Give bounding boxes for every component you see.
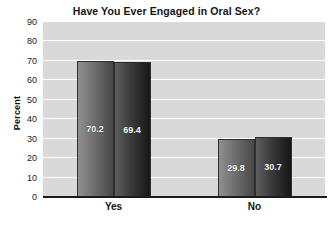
chart-figure: Have You Ever Engaged in Oral Sex? Male … (0, 0, 333, 227)
bar-value-label: 29.8 (219, 163, 254, 173)
y-tick-label: 40 (27, 114, 37, 124)
bar-value-label: 69.4 (115, 125, 150, 135)
x-axis-tick-labels: YesNo (43, 201, 325, 221)
y-tick-label: 0 (32, 192, 37, 202)
bar-male-yes[interactable]: 70.2 (77, 61, 114, 198)
bar-female-yes[interactable]: 69.4 (114, 62, 151, 197)
chart-title: Have You Ever Engaged in Oral Sex? (0, 5, 333, 17)
y-tick-label: 10 (27, 173, 37, 183)
y-tick-label: 80 (27, 36, 37, 46)
plot-area: 70.269.429.830.7 (43, 22, 325, 197)
y-tick-label: 60 (27, 75, 37, 85)
x-tick-label: Yes (105, 201, 122, 212)
y-axis-tick-labels: 0102030405060708090 (0, 0, 42, 227)
bar-value-label: 70.2 (78, 124, 113, 134)
x-axis-line (43, 196, 327, 198)
y-tick-label: 90 (27, 17, 37, 27)
gridline (43, 40, 325, 41)
y-tick-label: 50 (27, 95, 37, 105)
y-tick-label: 30 (27, 134, 37, 144)
gridline (43, 21, 325, 22)
x-tick-label: No (248, 201, 261, 212)
bar-female-no[interactable]: 30.7 (255, 137, 292, 197)
y-tick-label: 20 (27, 153, 37, 163)
y-tick-label: 70 (27, 56, 37, 66)
bar-value-label: 30.7 (256, 162, 291, 172)
bar-male-no[interactable]: 29.8 (218, 139, 255, 197)
